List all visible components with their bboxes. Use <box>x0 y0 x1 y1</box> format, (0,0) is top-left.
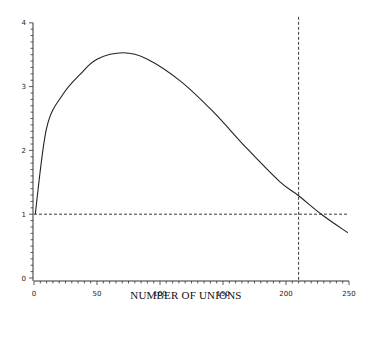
y-tick-label: 3 <box>22 83 26 91</box>
data-curve <box>35 53 347 233</box>
y-tick-label: 4 <box>22 19 27 27</box>
y-tick-label: 2 <box>22 147 26 155</box>
x-axis-label: NUMBER OF UNIONS <box>0 289 372 301</box>
y-tick-label: 0 <box>22 275 26 283</box>
y-tick-label: 1 <box>22 211 26 219</box>
